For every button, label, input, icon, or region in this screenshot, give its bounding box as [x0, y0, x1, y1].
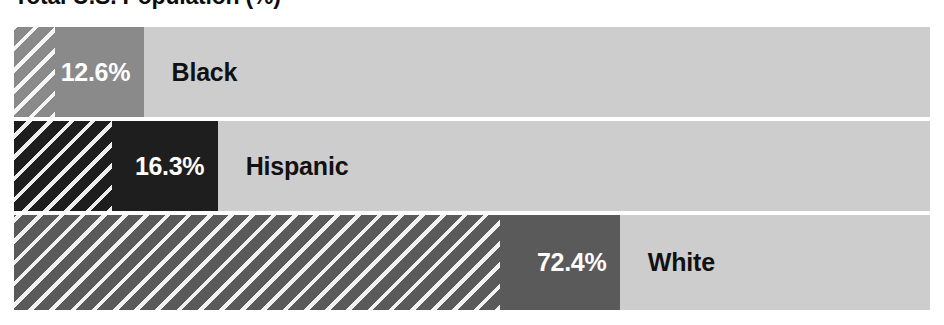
- bar-hatch-overlay: [14, 121, 112, 211]
- bar-category-label: Black: [172, 27, 238, 117]
- bar-category-label: Hispanic: [246, 121, 349, 211]
- bar-row: 72.4% White: [14, 215, 930, 310]
- bar-value-segment: 72.4%: [14, 215, 620, 310]
- bar-value-segment: 16.3%: [14, 121, 218, 211]
- bar-hatch-overlay: [14, 27, 55, 117]
- bar-value-segment: 12.6%: [14, 27, 144, 117]
- bar-percent-label: 16.3%: [135, 152, 218, 181]
- bar-row: 16.3% Hispanic: [14, 121, 930, 211]
- bar-row: 12.6% Black: [14, 27, 930, 117]
- chart-figure: Total U.S. Population (%) 12.6% Black 16…: [0, 0, 944, 325]
- chart-title: Total U.S. Population (%): [14, 0, 281, 10]
- bar-category-label: White: [648, 215, 715, 310]
- plot-area: 12.6% Black 16.3% Hispanic 72.4% White: [14, 27, 930, 310]
- bar-percent-label: 72.4%: [537, 248, 620, 277]
- bar-hatch-overlay: [14, 215, 500, 310]
- bar-percent-label: 12.6%: [61, 58, 144, 87]
